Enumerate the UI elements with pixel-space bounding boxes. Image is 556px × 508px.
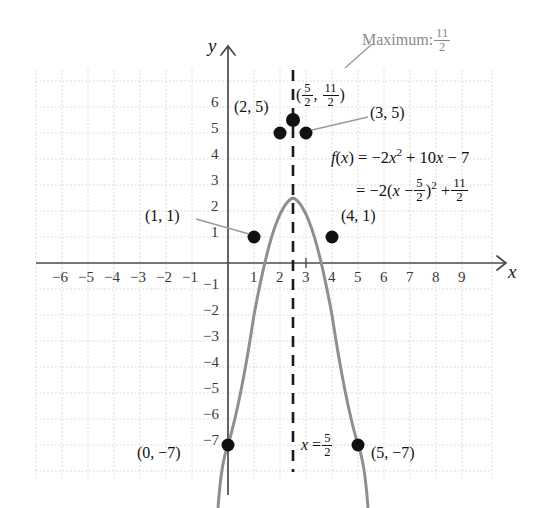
symmetry-fraction: 52 — [322, 432, 332, 458]
xtick-9: 9 — [458, 270, 466, 285]
eq2-equals: = — [356, 181, 365, 200]
ytick--5: −5 — [203, 381, 219, 396]
ytick-1: 1 — [211, 225, 219, 240]
eq2-h-denominator: 2 — [414, 191, 424, 204]
xtick-8: 8 — [432, 270, 440, 285]
eq2-variable: x — [393, 181, 400, 200]
label-point-5-neg7: (5, −7) — [371, 445, 415, 461]
ytick-6: 6 — [211, 95, 219, 110]
ytick-4: 4 — [211, 147, 219, 162]
vertex-x-denominator: 2 — [302, 96, 312, 109]
ytick--1: −1 — [203, 277, 219, 292]
eq1-equals: = — [358, 148, 367, 167]
xtick-1: 1 — [250, 270, 258, 285]
eq1-linear-x: x — [436, 148, 443, 167]
xtick-4: 4 — [328, 270, 336, 285]
eq1-coefficient-a: −2 — [371, 148, 389, 167]
vertex-y-denominator: 2 — [323, 96, 339, 109]
eq2-k-denominator: 2 — [451, 191, 467, 204]
maximum-annotation-text: Maximum: — [362, 31, 433, 48]
ytick-5: 5 — [211, 121, 219, 136]
ytick-2: 2 — [211, 199, 219, 214]
vertex-point-label: (52, 112) — [296, 82, 345, 108]
point-2-5 — [274, 127, 287, 140]
eq2-h-fraction: 52 — [414, 177, 424, 204]
label-point-0-neg7: (0, −7) — [137, 445, 181, 461]
symmetry-numerator: 5 — [322, 432, 332, 446]
eq2-coefficient-a: −2( — [369, 181, 392, 200]
eq2-exponent: 2 — [431, 179, 437, 191]
xtick--4: −4 — [104, 270, 120, 285]
vertex-label-close-paren: ) — [340, 86, 345, 103]
function-equation-vertex-form: = −2(x −52)2 +112 — [356, 177, 469, 204]
label-point-2-5: (2, 5) — [234, 99, 269, 115]
eq1-constant: − 7 — [448, 148, 470, 167]
vertex-label-open-paren: ( — [296, 86, 301, 103]
eq2-h-numerator: 5 — [414, 177, 424, 191]
xtick--6: −6 — [52, 270, 68, 285]
parabola-figure: y x −6 −5 −4 −3 −2 −1 1 2 3 4 5 6 7 8 9 … — [0, 0, 556, 508]
xtick-5: 5 — [354, 270, 362, 285]
vertex-x-numerator: 5 — [302, 82, 312, 96]
xtick-3: 3 — [302, 270, 310, 285]
vertex-label-comma: , — [314, 86, 318, 103]
vertex-label-y-fraction: 112 — [323, 82, 339, 108]
leader-1-1 — [196, 219, 249, 234]
coordinate-plane — [0, 0, 556, 508]
leader-3-5 — [312, 117, 368, 130]
vertex-y-numerator: 11 — [323, 82, 339, 96]
xtick--3: −3 — [130, 270, 146, 285]
point-vertex — [286, 113, 300, 127]
xtick--1: −1 — [182, 270, 198, 285]
maximum-annotation-fraction: 112 — [434, 27, 450, 53]
symmetry-equals: = — [312, 436, 321, 453]
label-point-4-1: (4, 1) — [341, 208, 376, 224]
ytick--3: −3 — [203, 329, 219, 344]
eq2-k-fraction: 112 — [451, 177, 467, 204]
function-equation-standard: f(x) = −2x2 + 10x − 7 — [331, 147, 469, 166]
maximum-numerator: 11 — [434, 27, 450, 41]
point-5-neg7 — [352, 439, 365, 452]
ytick--6: −6 — [203, 407, 219, 422]
point-3-5 — [300, 127, 313, 140]
xtick--5: −5 — [78, 270, 94, 285]
xtick-2: 2 — [276, 270, 284, 285]
ytick--7: −7 — [203, 433, 219, 448]
axis-of-symmetry-label: x =52 — [301, 432, 333, 458]
symmetry-variable: x — [301, 436, 308, 453]
symmetry-denominator: 2 — [322, 446, 332, 459]
maximum-denominator: 2 — [434, 41, 450, 54]
eq2-minus: − — [404, 181, 413, 200]
point-4-1 — [326, 231, 339, 244]
eq1-coefficient-b: + 10 — [406, 148, 436, 167]
xtick-6: 6 — [380, 270, 388, 285]
ytick--4: −4 — [203, 355, 219, 370]
y-axis-label: y — [208, 36, 216, 55]
vertex-label-x-fraction: 52 — [302, 82, 312, 108]
xtick-7: 7 — [406, 270, 414, 285]
x-axis-label: x — [508, 262, 516, 281]
ytick--2: −2 — [203, 303, 219, 318]
eq2-plus: + — [441, 181, 450, 200]
eq2-k-numerator: 11 — [451, 177, 467, 191]
eq1-close-paren: ) — [348, 148, 354, 167]
ytick-3: 3 — [211, 173, 219, 188]
eq1-exponent: 2 — [396, 146, 402, 158]
maximum-annotation: Maximum:112 — [362, 27, 451, 53]
point-0-neg7 — [222, 439, 235, 452]
point-1-1 — [248, 231, 261, 244]
label-point-1-1: (1, 1) — [145, 208, 180, 224]
label-point-3-5: (3, 5) — [370, 105, 405, 121]
xtick--2: −2 — [156, 270, 172, 285]
